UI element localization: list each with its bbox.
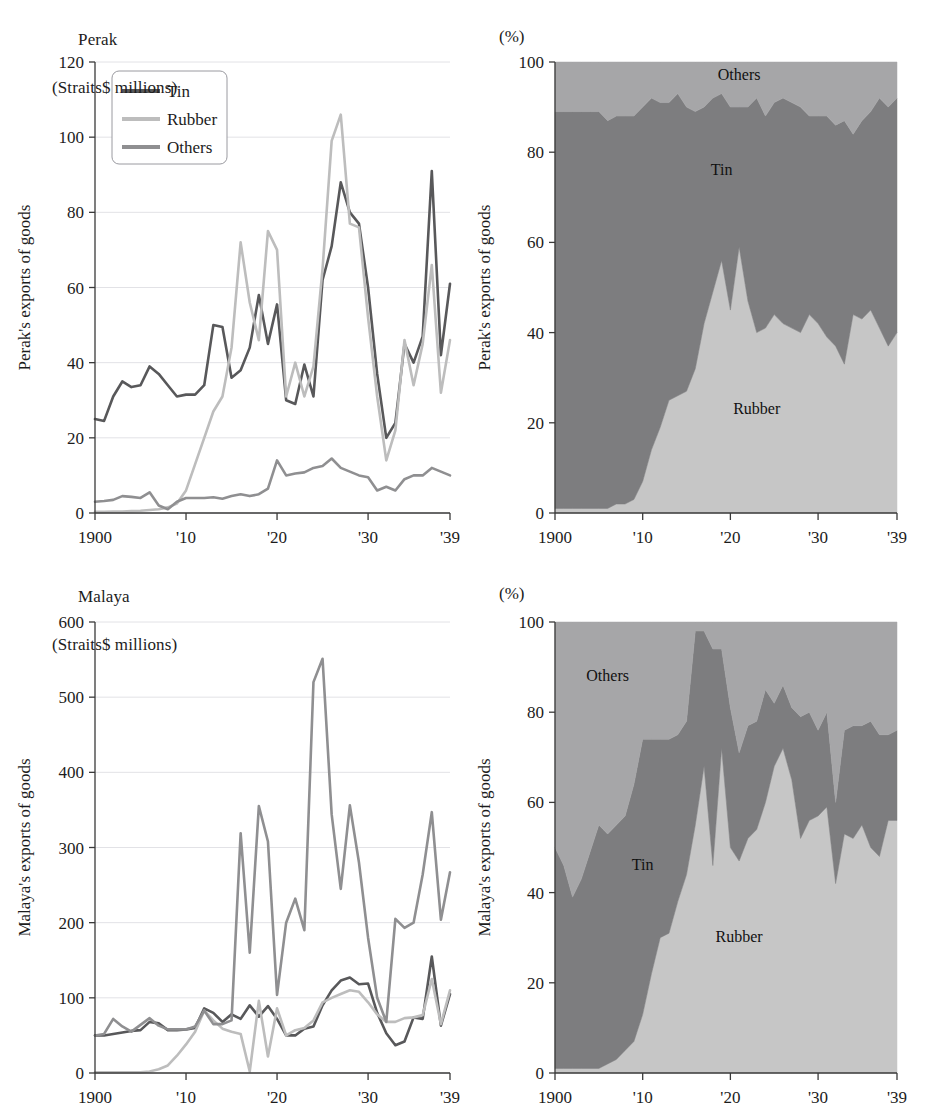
axis-label-y: Malaya's exports of goods	[475, 758, 494, 936]
ytick-label: 0	[76, 1064, 85, 1083]
xtick-label: '20	[720, 528, 740, 547]
panel-title-line1: Perak	[78, 30, 117, 49]
chart-perak-shares: Perak's exports of goods0204060801001900…	[460, 0, 930, 557]
ytick-label: 40	[527, 884, 544, 903]
xtick-label: '20	[267, 528, 287, 547]
ytick-label: 300	[59, 839, 85, 858]
series-line-others	[95, 459, 450, 510]
area-annotation-others: Others	[718, 66, 761, 83]
ytick-label: 80	[527, 143, 544, 162]
area-annotation-others: Others	[586, 667, 629, 684]
ytick-label: 0	[536, 1064, 545, 1083]
series-line-rubber	[95, 115, 450, 512]
ytick-label: 40	[527, 324, 544, 343]
xtick-label: '39	[887, 1088, 907, 1107]
ytick-label: 20	[527, 414, 544, 433]
ytick-label: 100	[59, 989, 85, 1008]
xtick-label: '10	[176, 528, 196, 547]
ytick-label: 100	[519, 613, 545, 632]
xtick-label: '20	[720, 1088, 740, 1107]
xtick-label: 1900	[78, 528, 112, 547]
xtick-label: '30	[808, 1088, 828, 1107]
ytick-label: 200	[59, 914, 85, 933]
ytick-label: 40	[67, 354, 84, 373]
chart-malaya-shares: Malaya's exports of goods020406080100190…	[460, 557, 930, 1115]
ytick-label: 100	[519, 53, 545, 72]
ytick-label: 80	[527, 703, 544, 722]
xtick-label: '39	[440, 528, 460, 547]
axis-label-y: Malaya's exports of goods	[15, 758, 34, 936]
xtick-label: '10	[633, 1088, 653, 1107]
panel-title-line2: (Straits$ millions)	[52, 76, 177, 100]
ytick-label: 0	[536, 504, 545, 523]
panel-malaya-shares: (%) Malaya's exports of goods02040608010…	[460, 557, 930, 1115]
xtick-label: '30	[358, 528, 378, 547]
xtick-label: '30	[358, 1088, 378, 1107]
ytick-label: 20	[67, 429, 84, 448]
axis-label-y: Perak's exports of goods	[15, 205, 34, 371]
figure-root: Perak (Straits$ millions) Perak's export…	[0, 0, 930, 1115]
series-line-tin	[95, 171, 450, 438]
area-annotation-tin: Tin	[711, 161, 733, 178]
ytick-label: 60	[527, 233, 544, 252]
xtick-label: '30	[808, 528, 828, 547]
series-line-rubber	[95, 979, 450, 1072]
axis-label-y: Perak's exports of goods	[475, 205, 494, 371]
xtick-label: '10	[633, 528, 653, 547]
xtick-label: 1900	[78, 1088, 112, 1107]
xtick-label: '39	[887, 528, 907, 547]
panel-title-malaya: Malaya (Straits$ millions)	[52, 561, 177, 705]
panel-title-line1: Malaya	[78, 587, 130, 606]
xtick-label: '20	[267, 1088, 287, 1107]
unit-label-perak-shares: (%)	[499, 26, 524, 48]
panel-perak-shares: (%) Perak's exports of goods020406080100…	[460, 0, 930, 557]
xtick-label: '10	[176, 1088, 196, 1107]
xtick-label: '39	[440, 1088, 460, 1107]
ytick-label: 80	[67, 203, 84, 222]
area-annotation-tin: Tin	[632, 856, 654, 873]
xtick-label: 1900	[538, 528, 572, 547]
ytick-label: 60	[67, 279, 84, 298]
ytick-label: 20	[527, 974, 544, 993]
panel-title-line2: (Straits$ millions)	[52, 633, 177, 657]
area-annotation-rubber: Rubber	[733, 400, 781, 417]
ytick-label: 400	[59, 763, 85, 782]
ytick-label: 0	[76, 504, 85, 523]
area-annotation-rubber: Rubber	[716, 928, 764, 945]
panel-malaya-levels: Malaya (Straits$ millions) Malaya's expo…	[0, 557, 470, 1115]
panel-title-perak: Perak (Straits$ millions)	[52, 4, 177, 148]
ytick-label: 60	[527, 793, 544, 812]
panel-perak-levels: Perak (Straits$ millions) Perak's export…	[0, 0, 470, 557]
unit-label-malaya-shares: (%)	[499, 583, 524, 605]
xtick-label: 1900	[538, 1088, 572, 1107]
